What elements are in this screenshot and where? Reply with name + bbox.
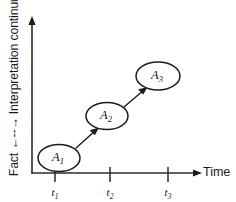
node-a3[interactable]: A3 xyxy=(136,62,180,90)
tick-label-t3: t3 xyxy=(165,186,172,201)
arrow-a1-to-a2 xyxy=(76,128,99,149)
diagram-svg: t1 t2 t3 A1 A2 A3 xyxy=(0,0,236,202)
tick-label-t1: t1 xyxy=(52,186,59,201)
figure-canvas: t1 t2 t3 A1 A2 A3 xyxy=(0,0,236,202)
tick-label-t2: t2 xyxy=(107,186,114,201)
y-axis-group xyxy=(28,16,35,173)
arrow-a2-to-a3 xyxy=(124,87,148,107)
x-axis-ticks: t1 t2 t3 xyxy=(52,167,172,201)
y-axis-arrowhead xyxy=(28,16,35,25)
node-a1[interactable]: A1 xyxy=(38,145,80,172)
node-a2[interactable]: A2 xyxy=(86,103,128,130)
x-axis-arrowhead xyxy=(193,169,202,176)
x-axis-title: Time xyxy=(203,165,230,179)
arrow-a2-to-a3-shaft xyxy=(124,90,144,107)
arrow-a1-to-a2-shaft xyxy=(76,131,96,149)
